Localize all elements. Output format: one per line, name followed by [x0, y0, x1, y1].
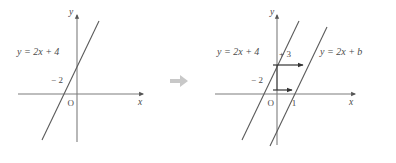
right-shifted-intercept-label: 1	[292, 98, 297, 108]
left-panel: y x O − 2 y = 2x + 4	[16, 7, 143, 142]
right-arrow-icon	[170, 75, 188, 87]
left-y-axis-label: y	[68, 7, 74, 17]
right-origin-label: O	[268, 98, 275, 108]
linear-function-translation-figure: y x O − 2 y = 2x + 4	[0, 0, 396, 163]
right-y-axis-label: y	[269, 7, 275, 17]
right-panel: y x O − 2 1 + 3 y = 2x + 4 y = 2x + b	[215, 7, 362, 146]
right-translated-equation-label: y = 2x + b	[319, 46, 362, 57]
right-original-equation-label: y = 2x + 4	[216, 46, 259, 57]
left-x-intercept-label: − 2	[51, 75, 63, 85]
right-line-translated	[270, 27, 327, 146]
right-x-intercept-label: − 2	[251, 75, 263, 85]
left-origin-label: O	[68, 98, 75, 108]
figure-canvas: y x O − 2 y = 2x + 4	[0, 0, 396, 163]
left-equation-label: y = 2x + 4	[16, 46, 59, 57]
shift-amount-label: + 3	[279, 49, 291, 59]
right-x-axis-label: x	[348, 97, 354, 107]
left-x-axis-label: x	[137, 97, 143, 107]
